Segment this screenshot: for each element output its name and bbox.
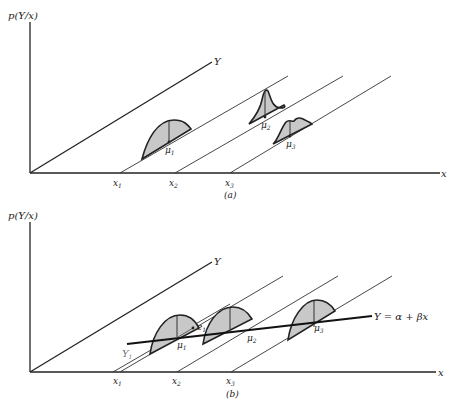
caption-a: (a) bbox=[224, 190, 237, 200]
panel-b: p(Y/x) x Y Y = α + βx Y1 e1 x1 x2 x3 μ1 … bbox=[8, 210, 444, 399]
x-tick-2: x2 bbox=[169, 178, 178, 189]
observation-label: Y1 bbox=[122, 348, 132, 360]
x-tick-1: x1 bbox=[113, 376, 122, 387]
caption-b: (b) bbox=[226, 389, 239, 399]
x-axis-label: x bbox=[438, 367, 444, 378]
regression-label: Y = α + βx bbox=[374, 311, 429, 322]
y-axis-label: p(Y/x) bbox=[8, 10, 38, 21]
observation-point bbox=[192, 327, 195, 330]
distribution-curve-1 bbox=[150, 315, 199, 354]
mean-label-3: μ3 bbox=[314, 323, 324, 334]
distribution-curve-2 bbox=[203, 307, 252, 344]
mean-label-1: μ1 bbox=[177, 340, 187, 351]
depth-axis-label: Y bbox=[214, 256, 222, 267]
mean-label-3: μ3 bbox=[286, 139, 296, 150]
distribution-curve-3 bbox=[273, 118, 312, 144]
mean-label-2: μ2 bbox=[261, 120, 271, 131]
x-tick-3: x3 bbox=[226, 376, 235, 387]
guide-line-x2 bbox=[175, 76, 343, 173]
mean-label-2: μ2 bbox=[247, 333, 257, 344]
depth-axis-label: Y bbox=[214, 56, 222, 67]
x-tick-2: x2 bbox=[172, 376, 181, 387]
error-label: e1 bbox=[197, 322, 206, 333]
x-axis-label: x bbox=[441, 168, 447, 179]
mean-label-1: μ1 bbox=[165, 145, 175, 156]
panel-a: p(Y/x) x Y x1 x2 x3 μ1 μ2 μ3 (a) bbox=[8, 10, 447, 200]
depth-axis bbox=[30, 62, 212, 173]
regression-diagram: p(Y/x) x Y x1 x2 x3 μ1 μ2 μ3 (a) p(Y/x) … bbox=[0, 0, 457, 404]
x-tick-1: x1 bbox=[113, 178, 122, 189]
y-axis-label: p(Y/x) bbox=[8, 210, 38, 221]
x-tick-3: x3 bbox=[225, 178, 234, 189]
